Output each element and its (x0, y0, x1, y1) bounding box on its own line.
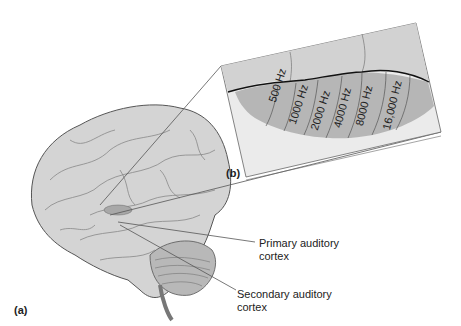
callout-lines (0, 0, 461, 326)
secondary-auditory-cortex-label: Secondary auditory cortex (237, 288, 332, 314)
primary-auditory-cortex-label: Primary auditory cortex (259, 237, 339, 263)
